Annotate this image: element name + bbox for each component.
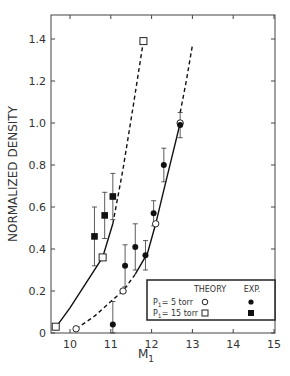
y-tick-label: 0.4 (29, 243, 47, 256)
filled-circle-marker (142, 252, 148, 258)
filled-circle-marker (122, 263, 128, 269)
dashed-fit-curve (113, 41, 144, 224)
x-tick-label: 11 (104, 338, 118, 351)
x-tick-label: 14 (226, 338, 240, 351)
open-square-marker (99, 254, 106, 261)
y-tick-label: 1.2 (29, 75, 47, 88)
y-tick-label: 1.0 (29, 117, 47, 130)
open-circle-marker (120, 288, 126, 294)
y-tick-label: 1.4 (29, 33, 47, 46)
legend-open-circle-icon (202, 299, 208, 305)
legend-filled-square-icon (248, 310, 254, 316)
filled-square-marker (91, 233, 98, 240)
filled-circle-marker (161, 162, 167, 168)
filled-square-marker (110, 193, 117, 200)
legend-header-theory: THEORY (193, 285, 226, 294)
y-tick-label: 0.8 (29, 159, 47, 172)
legend-open-square-icon (202, 310, 208, 316)
filled-circle-marker (177, 122, 183, 128)
legend-filled-circle-icon (248, 299, 253, 304)
y-tick-label: 0.6 (29, 201, 47, 214)
open-square-marker (140, 38, 147, 45)
y-axis-title: NORMALIZED DENSITY (6, 105, 20, 242)
filled-circle-marker (132, 244, 138, 250)
open-circle-marker (152, 221, 158, 227)
solid-fit-curve (135, 123, 180, 274)
y-tick-label: 0 (39, 327, 46, 340)
filled-circle-marker (151, 210, 157, 216)
filled-circle-marker (110, 322, 116, 328)
solid-fit-curve (58, 224, 113, 325)
dashed-fit-curve (76, 274, 135, 329)
legend-header-exp: EXP. (244, 285, 261, 294)
legend: THEORY EXP. P1= 5 torr P1= 15 torr (147, 280, 275, 320)
dashed-fit-curve (180, 45, 192, 112)
x-tick-label: 15 (267, 338, 281, 351)
filled-square-marker (101, 212, 108, 219)
open-circle-marker (73, 326, 79, 332)
y-tick-label: 0.2 (29, 285, 47, 298)
open-square-marker (52, 323, 59, 330)
x-tick-label: 10 (63, 338, 77, 351)
chart: 101112131415 00.20.40.60.81.01.21.4 NORM… (0, 0, 290, 376)
x-tick-label: 13 (185, 338, 199, 351)
